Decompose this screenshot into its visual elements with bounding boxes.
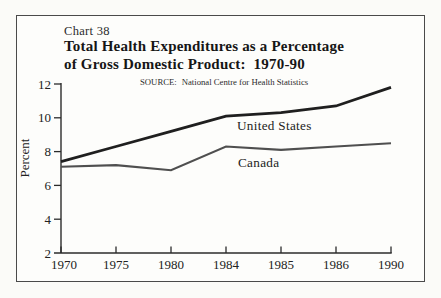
y-tick-label: 8	[45, 144, 52, 159]
x-tick-label: 1975	[103, 257, 129, 272]
x-tick-label: 1984	[213, 257, 240, 272]
x-tick-label: 1990	[378, 257, 404, 272]
x-tick-label: 1985	[268, 257, 294, 272]
y-tick-label: 4	[45, 212, 52, 227]
y-axis-title: Percent	[17, 138, 32, 177]
y-tick-label: 12	[38, 77, 51, 92]
x-tick-label: 1986	[323, 257, 350, 272]
x-tick-label: 1970	[51, 257, 77, 272]
series-label-united-states: United States	[237, 118, 312, 133]
line-chart-plot: 121086421970197519801984198519861990Perc…	[0, 0, 441, 298]
chart-figure: Chart 38 Total Health Expenditures as a …	[0, 0, 441, 298]
y-tick-label: 10	[38, 110, 51, 125]
x-tick-label: 1980	[158, 257, 184, 272]
y-tick-label: 6	[45, 178, 52, 193]
series-label-canada: Canada	[238, 155, 279, 170]
series-line-united-states	[61, 87, 391, 161]
